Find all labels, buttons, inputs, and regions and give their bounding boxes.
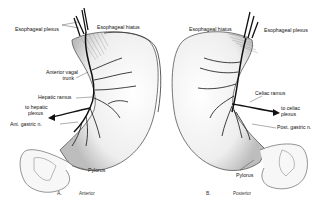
label-celiac-ramus: Celiac ramus bbox=[255, 90, 285, 96]
label-esophageal-hiatus-a: Esophageal hiatus bbox=[97, 24, 140, 30]
label-hepatic-ramus: Hepatic ramus bbox=[38, 94, 71, 100]
panel-b-posterior bbox=[172, 12, 307, 189]
label-post-gastric-n: Post. gastric n. bbox=[277, 124, 311, 130]
panel-a-letter: A. bbox=[57, 190, 62, 196]
panel-a-anterior bbox=[20, 8, 161, 192]
label-ant-gastric-n: Ant. gastric n. bbox=[10, 121, 42, 127]
panel-b-caption: Posterior bbox=[233, 191, 251, 196]
label-esophageal-hiatus-b: Esophageal hiatus bbox=[189, 26, 232, 32]
label-esophageal-plexus-b: Esophageal plexus bbox=[264, 27, 308, 33]
panel-b-letter: B. bbox=[206, 190, 211, 196]
label-anterior-vagal-trunk-line2: trunk bbox=[34, 75, 74, 81]
panel-a-caption: Anterior bbox=[79, 191, 95, 196]
label-pylorus-a: Pylorus bbox=[88, 167, 105, 173]
label-to-hepatic-plexus-line2: plexus bbox=[28, 110, 43, 116]
label-pylorus-b: Pylorus bbox=[236, 172, 253, 178]
label-to-celiac-plexus-line2: plexus bbox=[281, 111, 296, 117]
label-esophageal-plexus-a: Esophageal plexus bbox=[15, 26, 59, 32]
